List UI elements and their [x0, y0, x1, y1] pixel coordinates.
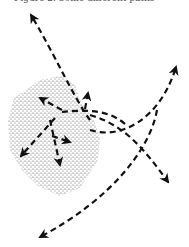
paths-diagram	[0, 0, 189, 247]
figure-caption: Figure 2. Some different paths	[14, 0, 154, 3]
path-crossing-to-upper-right	[90, 67, 176, 132]
diagram-canvas: Figure 2. Some different paths	[0, 0, 189, 247]
path-inner-to-up	[85, 93, 88, 109]
path-right-down	[90, 115, 168, 182]
